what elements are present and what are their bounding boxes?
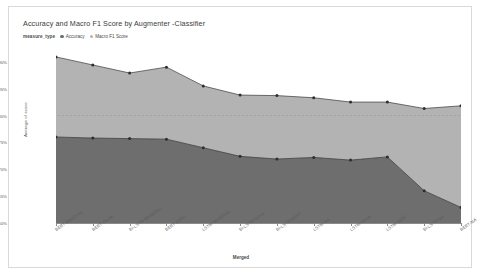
x-axis-title: Merged (9, 255, 473, 260)
data-point[interactable] (423, 189, 426, 192)
data-point[interactable] (275, 158, 278, 161)
y-axis-title: Average of score (23, 102, 28, 137)
stacked-area-svg (56, 51, 461, 223)
data-point[interactable] (349, 159, 352, 162)
data-point[interactable] (202, 84, 205, 87)
legend-label-macro-f1: Macro F1 Score (95, 34, 128, 39)
chart-viewport: Accuracy and Macro F1 Score by Augmenter… (0, 0, 480, 277)
y-axis: 90%85%80%75%70%65%60% (9, 7, 56, 223)
data-point[interactable] (128, 137, 131, 140)
legend-label-accuracy: Accuracy (66, 34, 85, 39)
legend-swatch-macro-f1 (90, 35, 94, 39)
data-point[interactable] (165, 138, 168, 141)
y-tick-label: 75% (0, 140, 7, 145)
y-tick-label: 60% (0, 221, 7, 226)
data-point[interactable] (128, 72, 131, 75)
y-tick-label: 90% (0, 59, 7, 64)
legend-item-macro-f1[interactable]: Macro F1 Score (90, 34, 128, 39)
x-tick-label[interactable]: BERT-NA (459, 217, 477, 232)
y-tick-label: 85% (0, 86, 7, 91)
data-point[interactable] (202, 146, 205, 149)
data-point[interactable] (239, 94, 242, 97)
data-point[interactable] (91, 63, 94, 66)
data-point[interactable] (239, 155, 242, 158)
data-point[interactable] (386, 155, 389, 158)
y-tick-label: 65% (0, 194, 7, 199)
data-point[interactable] (275, 94, 278, 97)
x-axis-ticks: BERT-Word2VecBERT-GloVeBi-LSTM-Word2VecB… (56, 223, 461, 269)
y-tick-label: 80% (0, 113, 7, 118)
plot-area[interactable] (56, 51, 461, 223)
y-tick-label: 70% (0, 167, 7, 172)
chart-panel: Accuracy and Macro F1 Score by Augmenter… (8, 6, 472, 268)
data-point[interactable] (91, 137, 94, 140)
data-point[interactable] (165, 66, 168, 69)
data-point[interactable] (423, 107, 426, 110)
data-point[interactable] (386, 101, 389, 104)
data-point[interactable] (312, 156, 315, 159)
data-point[interactable] (312, 96, 315, 99)
legend-item-accuracy[interactable]: Accuracy (60, 34, 85, 39)
legend-swatch-accuracy (60, 35, 64, 39)
data-point[interactable] (349, 101, 352, 104)
